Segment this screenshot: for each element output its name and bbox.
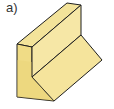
prism-diagram xyxy=(0,0,114,109)
